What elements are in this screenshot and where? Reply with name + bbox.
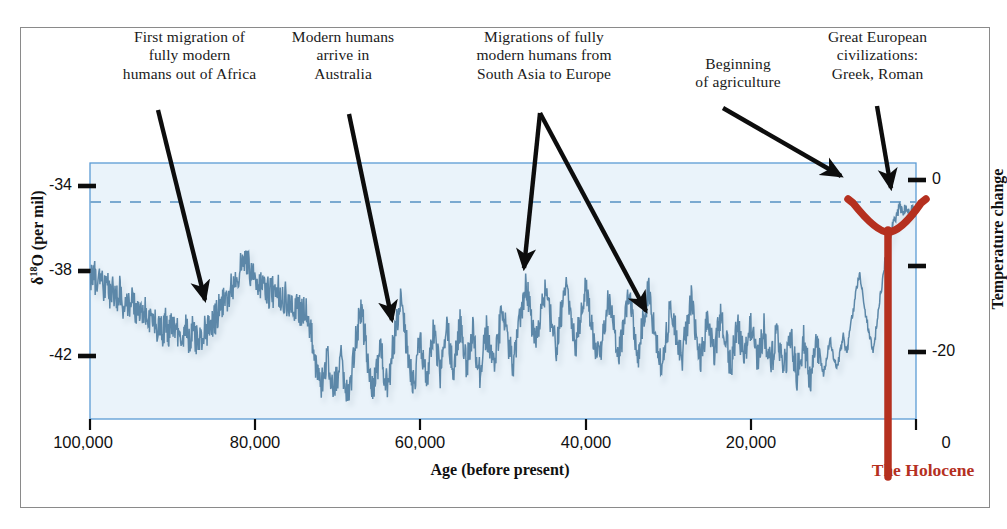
y-tick-label-left: -34 xyxy=(20,176,72,194)
x-tick-label: 80,000 xyxy=(210,433,300,452)
y-tick-label-left: -42 xyxy=(20,346,72,364)
x-tick-label: 60,000 xyxy=(375,433,465,452)
x-tick-label: 20,000 xyxy=(706,433,796,452)
x-axis-ticks xyxy=(90,419,916,430)
x-tick-label: 40,000 xyxy=(541,433,631,452)
y-tick-label-right: 0 xyxy=(932,170,972,188)
x-tick-label: 100,000 xyxy=(38,433,128,452)
y-tick-label-left: -38 xyxy=(20,261,72,279)
y-tick-label-right: -20 xyxy=(932,342,972,360)
x-tick-label: 0 xyxy=(901,433,991,452)
